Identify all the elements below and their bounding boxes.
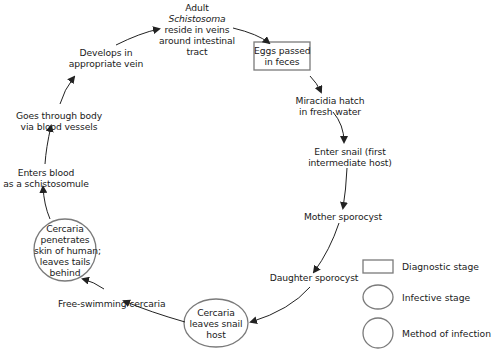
stage-enter-snail: Enter snail (first intermediate host) <box>305 146 395 168</box>
stage-cercaria-penetrates: Cercaria penetrates skin of human; leave… <box>34 223 96 278</box>
stage-miracidia: Miracidia hatch in fresh water <box>290 95 370 117</box>
stage-line: Adult <box>152 2 242 13</box>
stage-line: tract <box>152 46 242 57</box>
stage-line: skin of human; <box>34 245 96 256</box>
stage-enters-blood: Enters blood as a schistosomule <box>2 167 90 189</box>
stage-line: behind <box>34 267 96 278</box>
arrow-eggs-to-miracidia <box>310 76 321 92</box>
stage-line: Enters blood <box>2 167 90 178</box>
stage-line: Mother sporocyst <box>298 211 388 222</box>
stage-line: Eggs passed <box>254 45 310 56</box>
arrow-goes-to-develops <box>60 77 74 104</box>
stage-line: Cercaria <box>34 223 96 234</box>
stage-line: around intestinal <box>152 35 242 46</box>
stage-develops: Develops in appropriate vein <box>66 47 146 69</box>
legend-diagnostic-stage: Diagnostic stage <box>402 261 479 272</box>
stage-line: penetrates <box>34 234 96 245</box>
arrow-penetrates-to-blood <box>43 187 50 219</box>
stage-line: Miracidia hatch <box>290 95 370 106</box>
stage-line: Enter snail (first <box>305 146 395 157</box>
legend-infective-stage: Infective stage <box>402 292 470 303</box>
stage-daughter-sporocyst: Daughter sporocyst <box>266 272 362 283</box>
stage-line: Free-swimming cercaria <box>58 298 158 309</box>
arrow-daughter-to-cercaria <box>251 287 310 322</box>
legend-ellipse-icon <box>363 285 393 309</box>
stage-line: in fresh water <box>290 106 370 117</box>
arrow-freeswimming-to-penetrates <box>83 279 104 289</box>
stage-line: leaves tails <box>34 256 96 267</box>
stage-line: Daughter sporocyst <box>266 272 362 283</box>
legend-circle-icon <box>363 318 393 348</box>
stage-line: Cercaria <box>184 307 248 318</box>
stage-free-swimming: Free-swimming cercaria <box>58 298 158 309</box>
stage-line: Schistosoma <box>152 13 242 24</box>
stage-eggs: Eggs passed in feces <box>254 45 310 67</box>
legend-method-of-infection: Method of infection <box>402 328 491 339</box>
stage-line: appropriate vein <box>66 58 146 69</box>
stage-line: Goes through body <box>14 110 104 121</box>
arrow-mother-to-daughter <box>314 223 339 272</box>
stage-adult: Adult Schistosoma reside in veins around… <box>152 2 242 57</box>
stage-line: host <box>184 329 248 340</box>
stage-line: as a schistosomule <box>2 178 90 189</box>
stage-line: intermediate host) <box>305 157 395 168</box>
stage-cercaria-leaves: Cercaria leaves snail host <box>184 307 248 340</box>
stage-line: reside in veins <box>152 24 242 35</box>
stage-mother-sporocyst: Mother sporocyst <box>298 211 388 222</box>
arrow-snail-to-mother <box>343 168 347 208</box>
legend-rectangle-icon <box>363 260 393 273</box>
stage-line: leaves snail <box>184 318 248 329</box>
stage-line: Develops in <box>66 47 146 58</box>
stage-goes-through: Goes through body via blood vessels <box>14 110 104 132</box>
stage-line: via blood vessels <box>14 121 104 132</box>
stage-line: in feces <box>254 56 310 67</box>
